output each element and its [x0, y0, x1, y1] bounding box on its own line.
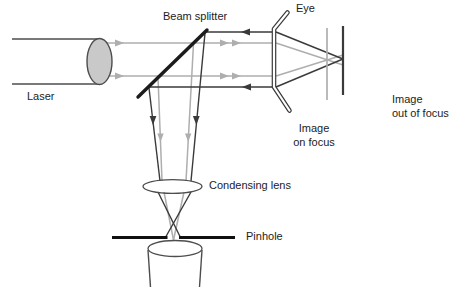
- laser-label: Laser: [27, 90, 55, 104]
- laser-icon: [12, 39, 112, 85]
- image-on-focus-label: Image on focus: [285, 122, 343, 149]
- pinhole-label: Pinhole: [246, 230, 283, 244]
- beam-splitter-label: Beam splitter: [163, 10, 227, 24]
- eye-icon: [274, 13, 290, 111]
- eye-label: Eye: [296, 2, 315, 16]
- detector-cylinder-icon: [148, 241, 202, 287]
- image-out-of-focus-label-line2: out of focus: [392, 107, 449, 119]
- optical-diagram: Beam splitter Eye Laser Condensing lens …: [0, 0, 461, 287]
- image-on-focus-label-line2: on focus: [293, 136, 335, 148]
- image-out-of-focus-label: Image out of focus: [392, 93, 458, 120]
- diagram-canvas: [0, 0, 461, 287]
- image-on-focus-label-line1: Image: [299, 122, 330, 134]
- image-out-of-focus-label-line1: Image: [392, 93, 423, 105]
- condensing-lens-icon: [143, 180, 202, 194]
- leader-lines: [315, 90, 384, 123]
- condensing-lens-label: Condensing lens: [209, 179, 291, 193]
